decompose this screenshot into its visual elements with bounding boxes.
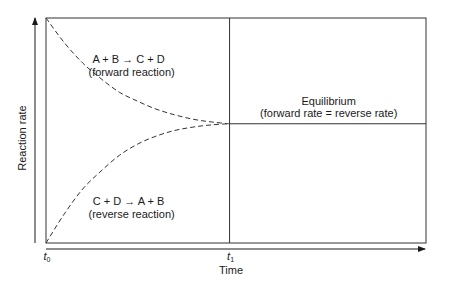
reverse-reaction-label: (reverse reaction) [89, 208, 175, 220]
reverse-reaction-curve [46, 124, 230, 243]
x-tick-t0: t0 [44, 250, 51, 263]
equilibrium-description: (forward rate = reverse rate) [260, 107, 397, 119]
equilibrium-title: Equilibrium [301, 95, 355, 107]
y-axis-label: Reaction rate [16, 105, 28, 170]
reaction-rate-chart: A + B → C + D (forward reaction) C + D →… [0, 0, 449, 292]
reverse-reaction-equation: C + D → A + B [93, 195, 165, 207]
forward-reaction-label: (forward reaction) [89, 66, 175, 78]
forward-reaction-equation: A + B → C + D [93, 53, 165, 65]
x-tick-t1: t1 [227, 250, 234, 263]
x-axis-label: Time [219, 264, 243, 276]
